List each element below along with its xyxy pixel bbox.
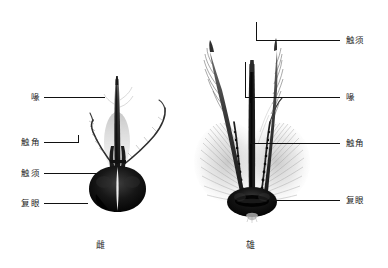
male-leader-line-antenna [250, 143, 340, 144]
female-label-proboscis: 喙 [4, 92, 40, 102]
female-leader-line-palp [44, 173, 100, 174]
female-leader-line-proboscis [44, 97, 105, 98]
mosquito-head-comparison-figure: 喙 触角 触须 复眼 触须 喙 触角 复眼 雌 雄 [0, 0, 388, 268]
male-leader-elbow-palp [256, 22, 257, 41]
female-leader-elbow-antenna [78, 135, 79, 143]
male-leader-line-palp [256, 40, 340, 41]
male-mosquito-head-image [192, 12, 312, 222]
female-leader-line-compound-eye [44, 203, 88, 204]
male-leader-line-compound-eye [272, 200, 340, 201]
female-leader-line-antenna [44, 142, 78, 143]
female-label-palp: 触须 [4, 168, 40, 178]
male-label-palp: 触须 [346, 35, 386, 45]
male-label-antenna: 触角 [346, 138, 386, 148]
male-label-compound-eye: 复眼 [346, 195, 386, 205]
male-leader-elbow-proboscis [245, 62, 246, 98]
female-label-antenna: 触角 [4, 137, 40, 147]
male-leader-line-proboscis [245, 97, 340, 98]
male-label-proboscis: 喙 [346, 92, 386, 102]
male-caption: 雄 [230, 238, 270, 251]
female-label-compound-eye: 复眼 [4, 198, 40, 208]
male-leader-elbow-antenna [250, 103, 251, 144]
female-caption: 雌 [80, 238, 120, 251]
female-mosquito-head-image [70, 74, 180, 216]
